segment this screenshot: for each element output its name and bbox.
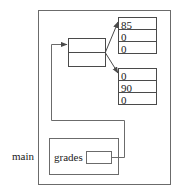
row-array-0-cell-0: 85 bbox=[121, 20, 132, 31]
row-array-0-cell-1: 0 bbox=[121, 32, 127, 43]
diagram-canvas: main grades 85 0 0 0 90 0 bbox=[0, 0, 186, 196]
arrow-pointer1-to-row1 bbox=[106, 53, 119, 73]
row-array-1-cell-1: 90 bbox=[121, 83, 132, 94]
row-array-1-cell-2: 0 bbox=[121, 95, 127, 106]
main-frame-label: main bbox=[12, 151, 34, 162]
connector-grades-to-pointer-array bbox=[52, 45, 125, 158]
grades-label: grades bbox=[54, 152, 83, 163]
grades-pointer-slot bbox=[87, 152, 112, 164]
arrow-pointer0-to-row0 bbox=[106, 22, 119, 52]
row-array-0-cell-2: 0 bbox=[121, 44, 127, 55]
row-array-1-cell-0: 0 bbox=[121, 71, 127, 82]
diagram-graphics bbox=[0, 0, 186, 196]
